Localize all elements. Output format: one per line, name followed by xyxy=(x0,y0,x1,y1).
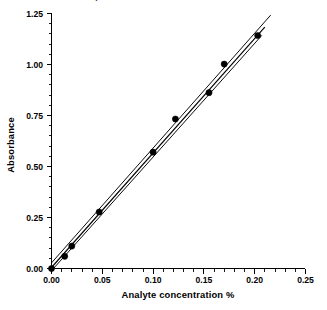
data-point xyxy=(48,265,54,271)
y-tick-label: 0.00 xyxy=(26,264,43,274)
y-tick-label: 0.50 xyxy=(26,162,43,172)
x-tick-label: 0.25 xyxy=(297,275,314,285)
x-tick-label: 0.20 xyxy=(246,275,263,285)
chart-canvas: 0.00 0.25 0.50 0.75 1.00 1.25 0.00 0.05 … xyxy=(0,0,327,310)
y-tick-label: 1.00 xyxy=(26,60,43,70)
calibration-chart-figure: Calibration plot with 95% confidence lim… xyxy=(0,0,327,310)
axes-group xyxy=(51,13,305,269)
y-tick-label: 0.75 xyxy=(26,111,43,121)
data-point xyxy=(255,32,261,38)
data-point xyxy=(221,61,227,67)
data-point xyxy=(206,90,212,96)
upper-confidence-line xyxy=(52,15,271,263)
data-point xyxy=(69,243,75,249)
y-tick-label: 0.25 xyxy=(26,213,43,223)
figure-title-clipped: Calibration plot with 95% confidence lim… xyxy=(46,0,296,1)
y-axis-title: Absorbance xyxy=(5,117,16,173)
x-tick-label: 0.00 xyxy=(43,275,60,285)
x-tick-labels: 0.00 0.05 0.10 0.15 0.20 0.25 xyxy=(43,275,314,285)
lower-confidence-line xyxy=(54,35,262,268)
y-axis-ticks xyxy=(47,14,52,269)
x-axis-ticks xyxy=(52,269,306,274)
y-tick-labels: 0.00 0.25 0.50 0.75 1.00 1.25 xyxy=(26,9,43,274)
x-axis-title: Analyte concentration % xyxy=(122,289,235,300)
regression-line xyxy=(52,27,265,267)
data-point xyxy=(96,209,102,215)
x-tick-label: 0.15 xyxy=(196,275,213,285)
y-tick-label: 1.25 xyxy=(26,9,43,19)
x-tick-label: 0.10 xyxy=(145,275,162,285)
data-point xyxy=(172,116,178,122)
data-point xyxy=(150,149,156,155)
x-tick-label: 0.05 xyxy=(94,275,111,285)
data-point xyxy=(62,253,68,259)
regression-lines-group xyxy=(52,15,271,268)
